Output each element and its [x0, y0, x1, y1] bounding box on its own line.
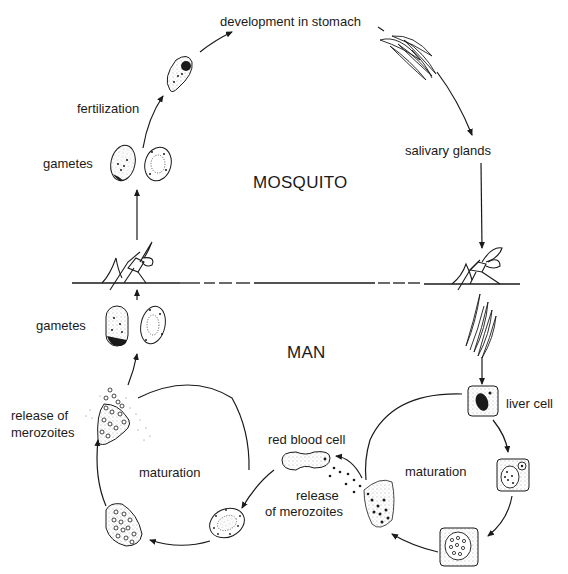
liver-schizont-early [497, 459, 529, 491]
zygote-cell [167, 56, 192, 91]
label-maturation-right: maturation [405, 464, 466, 479]
label-merozoites-left: merozoites [11, 425, 75, 440]
label-of-merozoites-mid: of merozoites [265, 504, 343, 519]
label-liver-cell: liver cell [506, 396, 553, 411]
label-development-in-stomach: development in stomach [220, 14, 361, 29]
label-salivary-glands: salivary glands [405, 143, 491, 158]
red-blood-cell [282, 452, 330, 470]
label-release-of-left: release of [11, 408, 68, 423]
label-man-region: MAN [287, 345, 326, 360]
gamete-pair-man [106, 304, 169, 346]
liver-cell [468, 386, 498, 416]
label-maturation-left: maturation [139, 465, 200, 480]
arrow-to-trophozoite [242, 470, 274, 508]
sporozoite-cluster-injected [466, 294, 496, 358]
arrow-to-stomach [200, 32, 232, 52]
arrow-fertilization [143, 96, 163, 148]
arrow-salivary-to-bite [481, 163, 482, 248]
gamete-pair-mosquito [108, 143, 175, 184]
trophozoite-cell [205, 503, 249, 544]
label-gametes-man: gametes [36, 318, 86, 333]
label-release-mid: release [296, 488, 339, 503]
life-cycle-diagram [0, 0, 568, 574]
label-gametes-mosquito: gametes [43, 156, 93, 171]
arrow-to-salivary [437, 72, 472, 135]
liver-schizont-mature [440, 528, 478, 566]
tilde-stomach [378, 27, 384, 31]
label-fertilization: fertilization [77, 101, 139, 116]
sporozoite-cluster-stomach [380, 36, 436, 80]
arrow-release-to-gametes [128, 354, 137, 385]
label-red-blood-cell: red blood cell [268, 432, 345, 447]
blood-schizont [106, 504, 142, 546]
label-mosquito-region: MOSQUITO [253, 175, 348, 190]
